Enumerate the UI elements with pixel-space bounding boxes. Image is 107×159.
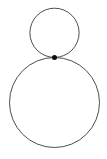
tangent-circles-figure [0, 0, 107, 159]
diagram-canvas [0, 0, 107, 159]
tangency-point-dot [52, 55, 57, 60]
